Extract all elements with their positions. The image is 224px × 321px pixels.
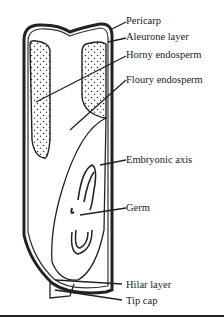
label-tip-cap: Tip cap bbox=[126, 296, 157, 307]
label-floury-endosperm: Floury endosperm bbox=[126, 75, 203, 86]
horny-endosperm-right bbox=[82, 42, 106, 118]
label-horny-endosperm: Horny endosperm bbox=[126, 50, 202, 61]
label-germ: Germ bbox=[126, 203, 150, 214]
label-aleurone-layer: Aleurone layer bbox=[126, 32, 189, 43]
embryonic-axis bbox=[78, 165, 96, 210]
label-hilar-layer: Hilar layer bbox=[126, 280, 171, 291]
label-embryonic-axis: Embryonic axis bbox=[126, 155, 192, 166]
label-pericarp: Pericarp bbox=[126, 16, 161, 27]
bottom-rule bbox=[0, 315, 224, 317]
